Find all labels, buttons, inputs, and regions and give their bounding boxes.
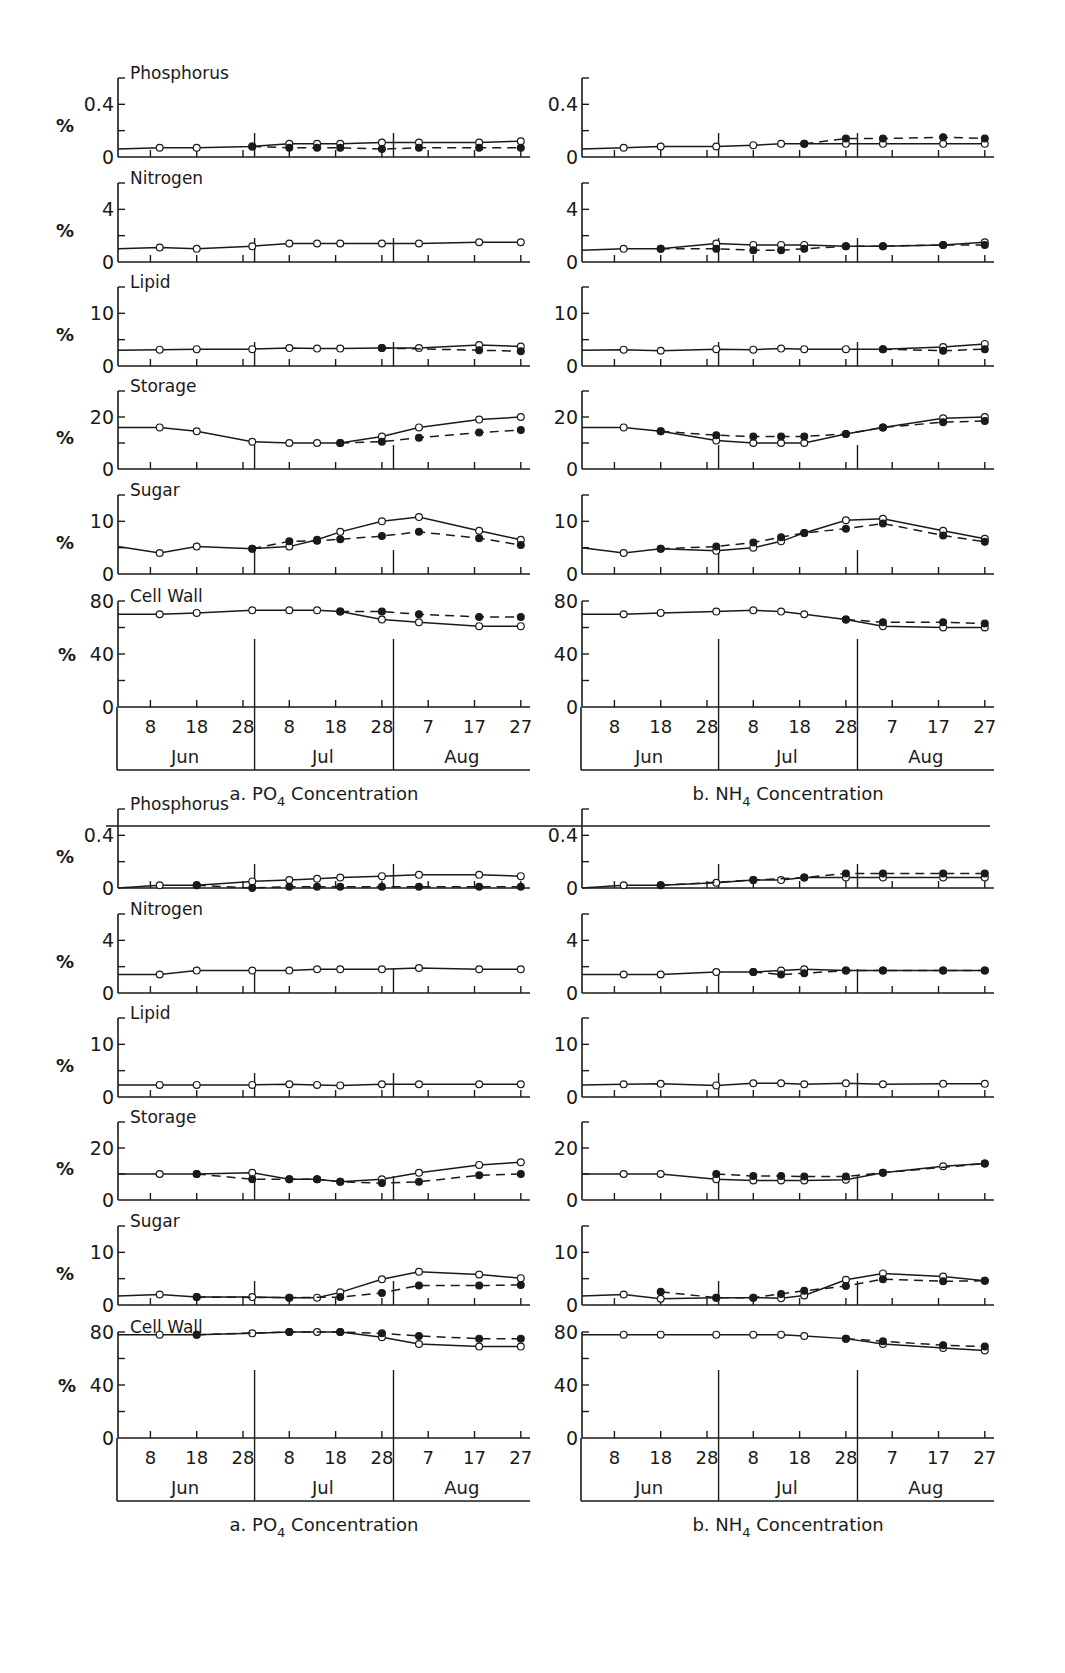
filled-circle-marker: [193, 1171, 200, 1178]
filled-circle-marker: [801, 245, 808, 252]
open-circle-marker: [476, 623, 483, 630]
filled-circle-marker: [657, 428, 664, 435]
open-circle-marker: [517, 239, 524, 246]
x-tick-label: 28: [696, 1447, 719, 1468]
open-circle-marker: [750, 607, 757, 614]
open-circle-marker: [750, 1080, 757, 1087]
open-circle-marker: [249, 243, 256, 250]
y-unit-label: %: [56, 532, 74, 553]
open-circle-marker: [416, 1169, 423, 1176]
y-unit-label: %: [56, 427, 74, 448]
x-tick-label: 7: [886, 716, 897, 737]
x-tick-label: 27: [973, 1447, 996, 1468]
filled-circle-marker: [801, 1173, 808, 1180]
y-tick-label: 10: [90, 1033, 114, 1055]
open-circle-marker: [249, 607, 256, 614]
x-tick-label: 7: [422, 1447, 433, 1468]
open-circle-marker: [940, 1080, 947, 1087]
open-circle-marker: [156, 346, 163, 353]
open-circle-marker: [778, 140, 785, 147]
y-tick-label: 40: [90, 643, 114, 665]
open-circle-marker: [476, 239, 483, 246]
subplot-title: Phosphorus: [130, 63, 229, 83]
dashed-series-line: [382, 348, 521, 351]
open-circle-marker: [843, 517, 850, 524]
y-tick-label: 80: [554, 590, 578, 612]
subplot-nitrogen: 04: [566, 183, 994, 273]
open-circle-marker: [476, 1271, 483, 1278]
subplot-storage: 020: [554, 391, 994, 480]
filled-circle-marker: [843, 1173, 850, 1180]
subplot-title: Lipid: [130, 1003, 171, 1023]
subplot-title: Storage: [130, 1107, 197, 1127]
open-circle-marker: [940, 1163, 947, 1170]
filled-circle-marker: [379, 1180, 386, 1187]
filled-circle-marker: [778, 1173, 785, 1180]
filled-circle-marker: [843, 1335, 850, 1342]
filled-circle-marker: [286, 538, 293, 545]
open-circle-marker: [620, 144, 627, 151]
open-circle-marker: [416, 1341, 423, 1348]
subplot-phosphorus: 00.4: [548, 78, 994, 168]
x-tick-label: 28: [370, 1447, 393, 1468]
open-circle-marker: [249, 346, 256, 353]
x-tick-label: 28: [834, 1447, 857, 1468]
open-circle-marker: [801, 346, 808, 353]
y-tick-label: 10: [554, 510, 578, 532]
filled-circle-marker: [337, 1329, 344, 1336]
open-circle-marker: [657, 1331, 664, 1338]
open-circle-marker: [620, 550, 627, 557]
open-circle-marker: [713, 143, 720, 150]
y-tick-label: 4: [102, 198, 114, 220]
open-circle-marker: [517, 1343, 524, 1350]
x-tick-label: 27: [973, 716, 996, 737]
filled-circle-marker: [940, 870, 947, 877]
filled-circle-marker: [750, 247, 757, 254]
x-tick-label: 17: [463, 716, 486, 737]
y-tick-label: 0.4: [548, 93, 578, 115]
open-circle-marker: [379, 1276, 386, 1283]
x-tick-label: 17: [927, 716, 950, 737]
subplot-cell-wall: 04080: [554, 590, 994, 718]
y-tick-label: 0: [102, 1427, 114, 1449]
filled-circle-marker: [880, 243, 887, 250]
open-circle-marker: [620, 611, 627, 618]
open-circle-marker: [286, 440, 293, 447]
y-unit-label: %: [56, 1158, 74, 1179]
subplot-cell-wall: 04080Cell Wall%: [58, 1317, 530, 1449]
open-circle-marker: [517, 623, 524, 630]
y-tick-label: 0: [102, 696, 114, 718]
open-circle-marker: [750, 1331, 757, 1338]
open-circle-marker: [416, 424, 423, 431]
open-circle-marker: [337, 528, 344, 535]
filled-circle-marker: [750, 433, 757, 440]
subplot-phosphorus: 00.4Phosphorus%: [56, 63, 530, 168]
open-circle-marker: [193, 428, 200, 435]
open-circle-marker: [416, 965, 423, 972]
open-circle-marker: [286, 607, 293, 614]
x-tick-label: 17: [927, 1447, 950, 1468]
chart-top-a: 00.4Phosphorus%04Nitrogen%010Lipid%020St…: [56, 63, 532, 809]
y-tick-label: 0: [102, 877, 114, 899]
filled-circle-marker: [379, 1330, 386, 1337]
open-circle-marker: [379, 873, 386, 880]
y-tick-label: 0: [566, 146, 578, 168]
y-tick-label: 10: [90, 302, 114, 324]
open-circle-marker: [379, 616, 386, 623]
open-circle-marker: [416, 619, 423, 626]
open-circle-marker: [778, 440, 785, 447]
y-tick-label: 20: [554, 1137, 578, 1159]
y-tick-label: 4: [102, 929, 114, 951]
subplot-title: Nitrogen: [130, 168, 203, 188]
open-circle-marker: [379, 518, 386, 525]
filled-circle-marker: [286, 144, 293, 151]
x-tick-label: 18: [788, 1447, 811, 1468]
month-label: Jul: [775, 746, 798, 767]
open-circle-marker: [620, 1291, 627, 1298]
open-circle-marker: [156, 1331, 163, 1338]
y-tick-label: 0: [102, 146, 114, 168]
filled-circle-marker: [476, 347, 483, 354]
x-tick-label: 8: [609, 716, 620, 737]
y-tick-label: 4: [566, 929, 578, 951]
subplot-title: Nitrogen: [130, 899, 203, 919]
